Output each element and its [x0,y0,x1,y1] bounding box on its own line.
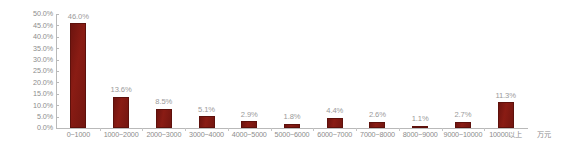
x-axis-unit-label: 万元 [537,131,551,138]
x-axis-tick-mark [399,128,400,131]
bar [498,102,514,128]
x-axis-tick-mark [484,128,485,131]
bar-group: 2.7% [442,14,485,128]
bar-group: 1.8% [271,14,314,128]
bar [156,109,172,128]
y-axis-tick-label: 20.0% [33,79,56,86]
x-axis-category-label: 10000以上 [489,131,522,138]
bar-group: 4.4% [313,14,356,128]
y-axis-tick-label: 35.0% [33,45,56,52]
bar-value-label: 4.4% [326,107,343,115]
x-axis-category-label: 4000~5000 [232,131,267,138]
y-axis-tick-label: 25.0% [33,67,56,74]
x-axis-category-label: 1000~2000 [104,131,139,138]
bar-group: 2.6% [356,14,399,128]
bar-group: 46.0% [57,14,100,128]
bar [199,116,215,128]
bar-group: 11.3% [484,14,527,128]
y-axis-tick-label: 30.0% [33,56,56,63]
y-axis-tick-label: 50.0% [33,10,56,17]
x-axis-category-label: 8000~9000 [403,131,438,138]
bar-value-label: 2.6% [369,111,386,119]
x-axis-tick-mark [100,128,101,131]
y-axis-tick-label: 45.0% [33,22,56,29]
bar [241,121,257,128]
x-axis-category-label: 3000~4000 [189,131,224,138]
x-axis-category-label: 6000~7000 [317,131,352,138]
bar [412,126,428,129]
y-axis-tick-label: 10.0% [33,102,56,109]
x-axis-line [56,128,528,129]
bar-chart: 0.0%5.0%10.0%15.0%20.0%25.0%30.0%35.0%40… [0,0,584,156]
bar-value-label: 8.5% [155,98,172,106]
x-axis-tick-mark [271,128,272,131]
x-axis-category-label: 2000~3000 [146,131,181,138]
x-axis-category-label: 5000~6000 [275,131,310,138]
y-axis-tick-label: 5.0% [37,113,56,120]
bar-value-label: 5.1% [198,106,215,114]
bar [284,124,300,128]
y-axis-tick-mark [56,128,59,129]
y-axis-tick-label: 15.0% [33,90,56,97]
bar-value-label: 13.6% [111,86,132,94]
bar-group: 8.5% [142,14,185,128]
bar [455,122,471,128]
x-axis-tick-mark [356,128,357,131]
bar-value-label: 1.8% [284,113,301,121]
bar-value-label: 2.9% [241,111,258,119]
bar-group: 5.1% [185,14,228,128]
x-axis-category-label: 7000~8000 [360,131,395,138]
bar-value-label: 2.7% [454,111,471,119]
x-axis-tick-mark [442,128,443,131]
bar-value-label: 46.0% [68,13,89,21]
bar-group: 2.9% [228,14,271,128]
bar-group: 1.1% [399,14,442,128]
x-axis-tick-mark [142,128,143,131]
x-axis-tick-mark [313,128,314,131]
y-axis-tick-label: 40.0% [33,33,56,40]
bar-group: 13.6% [100,14,143,128]
x-axis-tick-mark [228,128,229,131]
x-axis-tick-mark [185,128,186,131]
bar [369,122,385,128]
x-axis-category-label: 9000~10000 [444,131,483,138]
x-axis-category-label: 0~1000 [67,131,90,138]
y-axis-tick-label: 0.0% [37,124,56,131]
bar-value-label: 11.3% [495,92,515,100]
bar [70,23,86,128]
bar-value-label: 1.1% [412,115,429,123]
bar [327,118,343,128]
bar [113,97,129,128]
